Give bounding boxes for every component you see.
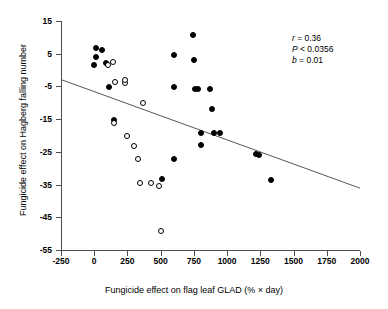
data-point-filled (207, 86, 213, 92)
statistics-annotation: r = 0.36P < 0.0356b = 0.01 (292, 33, 333, 66)
data-point-filled (93, 45, 99, 51)
data-point-filled (195, 86, 201, 92)
stat-P: P < 0.0356 (292, 44, 333, 55)
data-point-open (105, 62, 111, 68)
data-point-filled (256, 152, 262, 158)
x-axis-title: Fungicide effect on flag leaf GLAD (% × … (0, 285, 388, 295)
data-point-open (112, 79, 118, 85)
y-axis-title: Fungicide effect on Hagberg falling numb… (18, 10, 28, 250)
data-point-open (137, 180, 143, 186)
data-point-open (111, 120, 117, 126)
stat-value: = 0.01 (297, 55, 323, 65)
stat-value: = 0.36 (295, 33, 321, 43)
data-point-filled (171, 52, 177, 58)
data-point-filled (91, 62, 97, 68)
data-point-filled (268, 177, 274, 183)
data-point-open (131, 143, 137, 149)
scatter-plot-figure: 155-5-15-25-35-45-55 -250025050075010001… (0, 0, 388, 309)
data-point-filled (198, 142, 204, 148)
data-point-open (140, 100, 146, 106)
data-point-filled (217, 130, 223, 136)
data-point-open (110, 59, 116, 65)
data-point-filled (198, 130, 204, 136)
data-point-filled (191, 57, 197, 63)
data-point-filled (99, 47, 105, 53)
data-point-open (148, 180, 154, 186)
data-point-filled (171, 156, 177, 162)
data-point-filled (93, 54, 99, 60)
stat-value: < 0.0356 (298, 44, 334, 54)
stat-b: b = 0.01 (292, 55, 333, 66)
stat-r: r = 0.36 (292, 33, 333, 44)
data-point-filled (190, 32, 196, 38)
data-point-open (156, 183, 162, 189)
data-point-filled (209, 106, 215, 112)
data-point-open (158, 228, 164, 234)
data-point-open (124, 133, 130, 139)
data-point-filled (171, 84, 177, 90)
data-point-filled (211, 130, 217, 136)
data-point-filled (106, 84, 112, 90)
data-point-filled (159, 176, 165, 182)
data-point-open (135, 156, 141, 162)
